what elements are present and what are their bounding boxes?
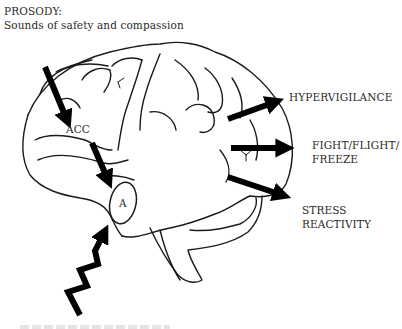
arrow-to-hypervigilance	[228, 102, 275, 119]
arrow-to-stress-reactivity	[228, 177, 282, 195]
prosody-title: PROSODY:	[4, 4, 62, 18]
arrows	[45, 67, 285, 315]
hypervigilance-label: HYPERVIGILANCE	[289, 90, 392, 104]
stress-reactivity-label-line2: REACTIVITY	[302, 217, 371, 231]
prosody-subtitle: Sounds of safety and compassion	[4, 18, 184, 32]
clipped-caption	[20, 325, 170, 329]
brain-diagram: PROSODY: Sounds of safety and compassion…	[0, 0, 402, 329]
arrow-zigzag-input-icon	[68, 233, 104, 315]
brain-outline	[23, 42, 292, 282]
fight-flight-label-line1: FIGHT/FLIGHT/	[312, 138, 399, 152]
arrow-prosody-to-acc	[45, 67, 67, 120]
amygdala-label: A	[119, 196, 127, 210]
acc-label: ACC	[66, 122, 90, 136]
stress-reactivity-label-line1: STRESS	[302, 203, 347, 217]
fight-flight-label-line2: FREEZE	[312, 152, 358, 166]
